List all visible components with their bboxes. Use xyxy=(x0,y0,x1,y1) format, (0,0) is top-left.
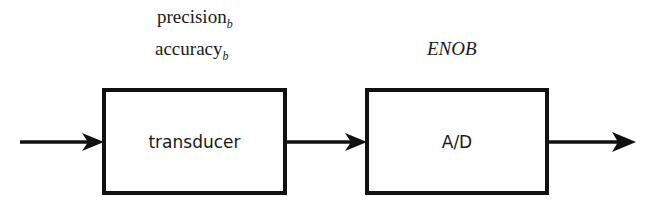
output-arrow xyxy=(547,132,636,152)
input-arrow xyxy=(20,133,104,151)
accuracy-subscript: b xyxy=(223,49,229,63)
diagram-canvas: precisionb accuracyb ENOB transducer A/D xyxy=(0,0,660,201)
transducer-block: transducer xyxy=(104,90,285,193)
accuracy-annotation: accuracyb xyxy=(155,38,229,63)
enob-annotation: ENOB xyxy=(426,38,477,59)
ad-label: A/D xyxy=(442,132,472,152)
precision-subscript: b xyxy=(227,17,233,31)
transducer-label: transducer xyxy=(148,132,240,152)
signal-chain-diagram: precisionb accuracyb ENOB transducer A/D xyxy=(0,0,660,201)
precision-annotation: precisionb xyxy=(157,6,233,31)
transducer-to-ad-arrow xyxy=(285,133,367,151)
ad-converter-block: A/D xyxy=(367,90,547,193)
